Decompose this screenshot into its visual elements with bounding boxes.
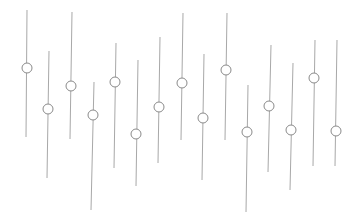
- range-line-14: [313, 40, 315, 166]
- marker-circle-5: [110, 77, 120, 87]
- marker-circle-2: [43, 104, 53, 114]
- marker-circle-11: [242, 127, 252, 137]
- marker-circle-4: [88, 110, 98, 120]
- range-line-3: [70, 12, 72, 139]
- marker-circle-3: [66, 81, 76, 91]
- range-line-1: [26, 10, 27, 137]
- marker-circle-1: [22, 63, 32, 73]
- marker-circle-6: [131, 129, 141, 139]
- marker-circle-8: [177, 78, 187, 88]
- marker-circle-13: [286, 125, 296, 135]
- marker-circle-14: [309, 73, 319, 83]
- range-line-6: [136, 60, 138, 186]
- marker-circle-7: [154, 102, 164, 112]
- range-line-11: [246, 85, 248, 212]
- range-line-15: [335, 40, 337, 166]
- range-line-8: [181, 13, 183, 140]
- range-marker-chart: [0, 0, 360, 220]
- range-line-5: [114, 43, 116, 168]
- range-lines-group: [26, 10, 337, 212]
- marker-circle-9: [198, 113, 208, 123]
- marker-circle-10: [221, 65, 231, 75]
- marker-circle-12: [264, 101, 274, 111]
- marker-circle-15: [331, 126, 341, 136]
- range-line-10: [225, 13, 227, 140]
- range-line-4: [91, 82, 94, 210]
- range-line-7: [158, 37, 160, 163]
